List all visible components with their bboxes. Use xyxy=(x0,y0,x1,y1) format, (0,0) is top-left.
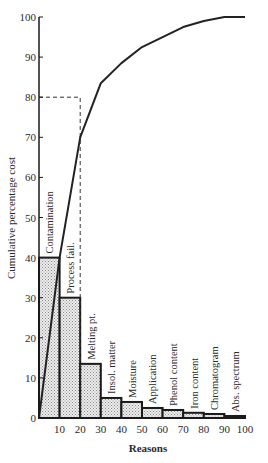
x-tick-label: 10 xyxy=(54,423,66,435)
y-tick-label: 100 xyxy=(20,11,37,23)
bar-label: Insol. matter xyxy=(106,340,117,394)
x-tick-label: 90 xyxy=(219,423,231,435)
bar-label: Process fail. xyxy=(65,242,76,293)
y-tick-label: 10 xyxy=(25,372,37,384)
bar-label: Abs. spectrum xyxy=(230,351,241,412)
y-tick-label: 0 xyxy=(31,412,37,424)
x-tick-label: 40 xyxy=(116,423,128,435)
x-tick-label: 80 xyxy=(198,423,210,435)
bar xyxy=(163,410,184,418)
bar xyxy=(121,402,142,418)
y-tick-label: 50 xyxy=(25,212,37,224)
x-axis-title: Reasons xyxy=(129,442,168,454)
bar-label: Iron content xyxy=(189,358,200,409)
y-axis-title: Cumulative percentage cost xyxy=(5,157,17,279)
bar-label: Contamination xyxy=(44,190,55,253)
x-tick-label: 30 xyxy=(95,423,107,435)
bar xyxy=(80,364,101,418)
bar-label: Moisture xyxy=(127,360,138,398)
x-tick-label: 50 xyxy=(137,423,149,435)
x-tick-label: 60 xyxy=(157,423,169,435)
x-tick-label: 100 xyxy=(237,423,254,435)
bar-label: Phenol content xyxy=(168,343,179,406)
bar xyxy=(101,398,122,418)
y-tick-label: 40 xyxy=(25,252,37,264)
pareto-chart: ContaminationProcess fail.Melting pt.Ins… xyxy=(0,0,268,463)
bar-label: Chromatogram xyxy=(209,346,220,410)
y-tick-label: 70 xyxy=(25,131,37,143)
y-tick-label: 60 xyxy=(25,171,37,183)
y-tick-label: 80 xyxy=(25,91,37,103)
y-tick-label: 90 xyxy=(25,51,37,63)
bar xyxy=(142,408,163,418)
x-tick-label: 20 xyxy=(75,423,87,435)
bar-label: Application xyxy=(147,354,158,404)
y-tick-label: 20 xyxy=(25,332,37,344)
bar-label: Melting pt. xyxy=(86,313,97,360)
y-tick-label: 30 xyxy=(25,292,37,304)
x-tick-label: 70 xyxy=(178,423,190,435)
bar xyxy=(60,298,81,418)
